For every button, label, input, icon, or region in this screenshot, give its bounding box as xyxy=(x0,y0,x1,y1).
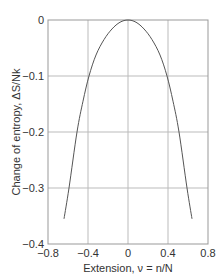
y-tick-labels: 0−0.1−0.2−0.3−0.4 xyxy=(22,14,44,250)
x-tick-label: 0 xyxy=(125,247,131,259)
y-tick-label: −0.2 xyxy=(22,126,44,138)
x-tick-label: 0.8 xyxy=(200,247,215,259)
x-tick-labels: −0.8−0.400.40.8 xyxy=(37,247,216,259)
entropy-chart: −0.8−0.400.40.8 0−0.1−0.2−0.3−0.4 Extens… xyxy=(0,0,223,278)
y-tick-label: −0.4 xyxy=(22,238,44,250)
y-tick-label: −0.1 xyxy=(22,70,44,82)
grid-lines xyxy=(48,20,208,244)
y-axis-label: Change of entropy, ΔS/Nk xyxy=(10,68,22,195)
y-tick-label: 0 xyxy=(38,14,44,26)
x-tick-label: 0.4 xyxy=(160,247,175,259)
x-tick-label: −0.4 xyxy=(77,247,99,259)
x-axis-label: Extension, ν = n/N xyxy=(83,262,173,274)
y-tick-label: −0.3 xyxy=(22,182,44,194)
